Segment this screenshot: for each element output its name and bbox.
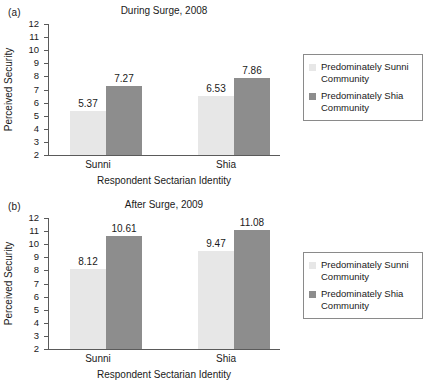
- bar-shia-group-shia-community-b: [234, 230, 270, 349]
- dark-gray-swatch-icon: [309, 291, 316, 298]
- y-tick-10-b: 10: [44, 244, 48, 245]
- bar-value-sunni-group-sunni-community-b: 8.12: [65, 257, 111, 267]
- panel-title-b: After Surge, 2009: [48, 199, 280, 210]
- y-tick-label-2-a: 2: [34, 150, 39, 160]
- x-category-label-sunni-a: Sunni: [58, 159, 138, 170]
- bar-value-shia-group-shia-community-a: 7.86: [229, 66, 275, 76]
- y-tick-9-a: 9: [44, 63, 48, 64]
- bar-value-shia-group-sunni-community-b: 9.47: [193, 239, 239, 249]
- y-tick-label-10-a: 10: [28, 45, 39, 55]
- y-tick-label-12-b: 12: [28, 213, 39, 223]
- figure-container: (a) During Surge, 2008 Perceived Securit…: [0, 0, 427, 388]
- y-tick-label-3-b: 3: [34, 331, 39, 341]
- legend-label-sunni-community-a: Predominately Sunni Community: [321, 61, 417, 85]
- y-tick-label-6-a: 6: [34, 98, 39, 108]
- y-tick-label-6-b: 6: [34, 292, 39, 302]
- bar-shia-group-shia-community-a: [234, 78, 270, 155]
- bar-shia-group-sunni-community-a: [198, 96, 234, 155]
- y-tick-4-b: 4: [44, 323, 48, 324]
- y-tick-12-b: 12: [44, 218, 48, 219]
- x-axis-line-a: [48, 155, 280, 156]
- y-tick-8-b: 8: [44, 270, 48, 271]
- y-tick-12-a: 12: [44, 24, 48, 25]
- y-axis-line-b: [48, 218, 49, 349]
- panel-tag-a: (a): [8, 7, 21, 18]
- y-axis-label-b: Perceived Security: [2, 218, 16, 349]
- legend-item-sunni-community-b: Predominately Sunni Community: [309, 259, 417, 283]
- y-tick-label-5-a: 5: [34, 111, 39, 121]
- bar-value-sunni-group-shia-community-a: 7.27: [101, 74, 147, 84]
- y-tick-label-2-b: 2: [34, 344, 39, 354]
- legend-item-sunni-community-a: Predominately Sunni Community: [309, 61, 417, 85]
- x-axis-label-a: Respondent Sectarian Identity: [48, 175, 280, 186]
- y-tick-label-9-a: 9: [34, 59, 39, 69]
- y-tick-6-a: 6: [44, 103, 48, 104]
- y-tick-label-8-a: 8: [34, 72, 39, 82]
- legend-label-sunni-community-b: Predominately Sunni Community: [321, 259, 417, 283]
- legend-item-shia-community-a: Predominately Shia Community: [309, 90, 417, 114]
- y-tick-5-b: 5: [44, 310, 48, 311]
- y-tick-label-10-b: 10: [28, 239, 39, 249]
- bar-sunni-group-shia-community-b: [106, 236, 142, 349]
- bar-sunni-group-sunni-community-b: [70, 269, 106, 349]
- y-tick-3-b: 3: [44, 336, 48, 337]
- y-tick-7-a: 7: [44, 90, 48, 91]
- y-tick-label-4-b: 4: [34, 318, 39, 328]
- bar-shia-group-sunni-community-b: [198, 251, 234, 349]
- y-tick-label-8-b: 8: [34, 266, 39, 276]
- legend-panel-b: Predominately Sunni Community Predominat…: [303, 252, 423, 319]
- y-tick-2-a: 2: [44, 155, 48, 156]
- panel-tag-b: (b): [8, 201, 21, 212]
- light-gray-swatch-icon: [309, 64, 316, 71]
- y-axis-label-text-a: Perceived Security: [4, 48, 15, 131]
- y-axis-label-a: Perceived Security: [2, 24, 16, 155]
- x-axis-line-b: [48, 349, 280, 350]
- y-tick-label-9-b: 9: [34, 253, 39, 263]
- y-tick-label-11-a: 11: [29, 32, 39, 42]
- bar-value-shia-group-sunni-community-a: 6.53: [193, 84, 239, 94]
- bar-sunni-group-shia-community-a: [106, 86, 142, 155]
- y-tick-9-b: 9: [44, 257, 48, 258]
- bar-value-sunni-group-shia-community-b: 10.61: [101, 224, 147, 234]
- x-axis-label-b: Respondent Sectarian Identity: [48, 369, 280, 380]
- bar-sunni-group-sunni-community-a: [70, 111, 106, 155]
- legend-label-shia-community-b: Predominately Shia Community: [321, 288, 417, 312]
- y-tick-label-4-a: 4: [34, 124, 39, 134]
- y-tick-8-a: 8: [44, 76, 48, 77]
- x-category-label-sunni-b: Sunni: [58, 353, 138, 364]
- y-tick-3-a: 3: [44, 142, 48, 143]
- y-axis-line-a: [48, 24, 49, 155]
- y-tick-2-b: 2: [44, 349, 48, 350]
- y-tick-label-7-b: 7: [34, 279, 39, 289]
- plot-area-a: 12 11 10 9 8 7 6 5 4: [48, 24, 280, 155]
- x-category-label-shia-a: Shia: [186, 159, 266, 170]
- legend-panel-a: Predominately Sunni Community Predominat…: [303, 54, 423, 121]
- plot-area-b: 12 11 10 9 8 7 6 5 4: [48, 218, 280, 349]
- y-tick-6-b: 6: [44, 297, 48, 298]
- dark-gray-swatch-icon: [309, 93, 316, 100]
- y-tick-5-a: 5: [44, 116, 48, 117]
- y-axis-label-text-b: Perceived Security: [4, 242, 15, 325]
- legend-item-shia-community-b: Predominately Shia Community: [309, 288, 417, 312]
- bar-value-sunni-group-sunni-community-a: 5.37: [65, 99, 111, 109]
- y-tick-4-a: 4: [44, 129, 48, 130]
- y-tick-label-12-a: 12: [28, 19, 39, 29]
- light-gray-swatch-icon: [309, 262, 316, 269]
- y-tick-label-7-a: 7: [34, 85, 39, 95]
- y-tick-label-5-b: 5: [34, 305, 39, 315]
- y-tick-label-11-b: 11: [29, 226, 39, 236]
- x-category-label-shia-b: Shia: [186, 353, 266, 364]
- y-tick-11-b: 11: [44, 231, 48, 232]
- y-tick-7-b: 7: [44, 284, 48, 285]
- y-tick-label-3-a: 3: [34, 137, 39, 147]
- bar-value-shia-group-shia-community-b: 11.08: [229, 218, 275, 228]
- y-tick-10-a: 10: [44, 50, 48, 51]
- y-tick-11-a: 11: [44, 37, 48, 38]
- panel-title-a: During Surge, 2008: [48, 5, 280, 16]
- legend-label-shia-community-a: Predominately Shia Community: [321, 90, 417, 114]
